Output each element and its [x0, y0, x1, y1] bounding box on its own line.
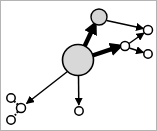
edge-root-to-relay-heavy [91, 47, 119, 56]
node-relay-right[interactable] [121, 42, 130, 51]
diagram-canvas [0, 0, 157, 131]
node-leaf-bottom-center[interactable] [75, 107, 83, 115]
node-link-graph [1, 1, 157, 131]
edge-leftrelay-to-lower-leaf-dotted [14, 112, 18, 117]
edge-root-to-hub2-heavy [84, 25, 94, 47]
edge-root-to-left-relay [27, 72, 68, 104]
node-leaf-top-right[interactable] [144, 26, 153, 35]
node-root-hub[interactable] [63, 45, 94, 76]
edge-relay-to-leaf-bottomright [129, 48, 143, 53]
edge-hub2-to-leaf-topright [107, 21, 144, 29]
node-relay-bottom-left[interactable] [17, 104, 26, 113]
node-secondary-hub[interactable] [91, 9, 107, 25]
node-leaf-bottom-right[interactable] [144, 50, 152, 58]
edge-leftrelay-to-upper-leaf-dotted [14, 101, 18, 104]
node-leaf-left-upper[interactable] [7, 94, 15, 102]
node-leaf-left-lower[interactable] [7, 116, 15, 124]
edge-relay-to-leaf-topright [129, 33, 144, 44]
